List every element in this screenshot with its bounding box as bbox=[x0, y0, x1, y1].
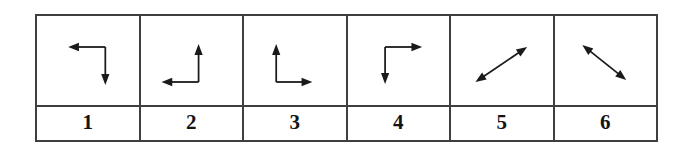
cell-number-label: 2 bbox=[186, 112, 197, 133]
arrow-cell-6 bbox=[555, 16, 657, 107]
arrow-elbow-up-left-icon bbox=[141, 16, 243, 105]
number-cell-4: 4 bbox=[348, 107, 450, 140]
option-column-2: 2 bbox=[141, 16, 245, 140]
option-column-3: 3 bbox=[244, 16, 348, 140]
number-cell-3: 3 bbox=[244, 107, 346, 140]
arrow-cell-2 bbox=[141, 16, 243, 107]
arrow-options-table: 1 2 3 4 5 bbox=[35, 14, 658, 142]
arrow-cell-5 bbox=[451, 16, 553, 107]
option-column-1: 1 bbox=[37, 16, 141, 140]
arrow-elbow-up-right-icon bbox=[244, 16, 346, 105]
option-column-5: 5 bbox=[451, 16, 555, 140]
arrow-elbow-left-down-icon bbox=[37, 16, 139, 105]
arrow-cell-1 bbox=[37, 16, 139, 107]
number-cell-6: 6 bbox=[555, 107, 657, 140]
option-column-6: 6 bbox=[555, 16, 657, 140]
arrow-elbow-right-down-icon bbox=[348, 16, 450, 105]
arrow-double-diagonal-down-right-icon bbox=[555, 16, 657, 105]
cell-number-label: 4 bbox=[393, 112, 404, 133]
cell-number-label: 1 bbox=[83, 112, 94, 133]
cell-number-label: 6 bbox=[600, 112, 611, 133]
arrow-cell-4 bbox=[348, 16, 450, 107]
cell-number-label: 5 bbox=[497, 112, 508, 133]
number-cell-1: 1 bbox=[37, 107, 139, 140]
arrow-cell-3 bbox=[244, 16, 346, 107]
number-cell-2: 2 bbox=[141, 107, 243, 140]
option-column-4: 4 bbox=[348, 16, 452, 140]
cell-number-label: 3 bbox=[290, 112, 301, 133]
arrow-double-diagonal-up-right-icon bbox=[451, 16, 553, 105]
number-cell-5: 5 bbox=[451, 107, 553, 140]
